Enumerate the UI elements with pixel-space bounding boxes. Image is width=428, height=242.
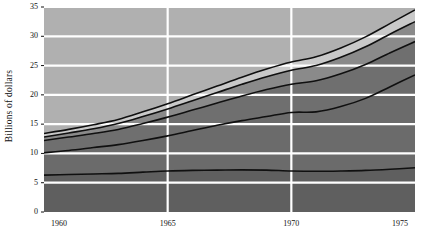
x-tick-label-1960: 1960 [39, 219, 79, 228]
y-tick-label-25: 25 [16, 61, 38, 70]
chart-container: Billions of dollars 05101520253035 19601… [0, 0, 428, 242]
y-tick-label-20: 20 [16, 90, 38, 99]
chart-plot-svg [0, 0, 428, 242]
x-tick-label-1975: 1975 [380, 219, 420, 228]
axis-tick-marks [41, 7, 44, 212]
y-tick-label-10: 10 [16, 148, 38, 157]
y-tick-label-15: 15 [16, 119, 38, 128]
y-tick-label-5: 5 [16, 178, 38, 187]
y-tick-label-0: 0 [16, 207, 38, 216]
y-tick-label-35: 35 [16, 2, 38, 11]
x-tick-label-1965: 1965 [148, 219, 188, 228]
plot-area [44, 7, 415, 212]
x-tick-label-1970: 1970 [271, 219, 311, 228]
y-tick-label-30: 30 [16, 31, 38, 40]
